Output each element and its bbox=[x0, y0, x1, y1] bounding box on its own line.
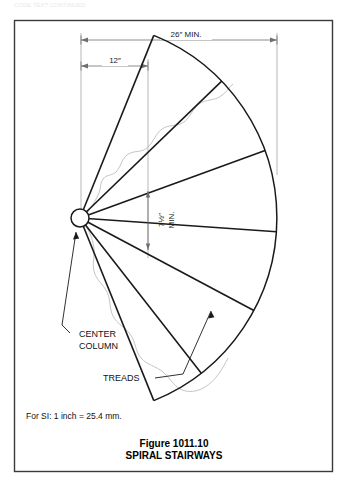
callout-label-center-column-line2: COLUMN bbox=[79, 341, 118, 351]
tread-line-3 bbox=[80, 151, 265, 218]
break-outline-upper bbox=[88, 84, 233, 212]
dimension-arrow-overall-right bbox=[270, 38, 277, 43]
dimension-label-column-offset: 12″ bbox=[109, 56, 121, 65]
figure-title: SPIRAL STAIRWAYS bbox=[126, 450, 223, 461]
si-conversion-note: For SI: 1 inch = 25.4 mm. bbox=[26, 411, 122, 421]
callout-label-center-column-line1: CENTER bbox=[79, 329, 117, 339]
center-column-circle bbox=[71, 209, 89, 227]
callout-label-treads: TREADS bbox=[103, 373, 140, 383]
figure-border bbox=[15, 21, 333, 472]
tread-line-2 bbox=[80, 81, 222, 218]
dimension-arrow-tread-bottom bbox=[146, 244, 150, 251]
callout-arrow-center-column bbox=[73, 232, 79, 240]
spiral-stairway-figure: CODE TEXT CONTINUED 26″ MIN. 12″ bbox=[0, 0, 348, 492]
figure-page: CODE TEXT CONTINUED 26″ MIN. 12″ bbox=[0, 0, 348, 492]
callout-leader-center-column bbox=[62, 232, 76, 333]
dimension-arrow-overall-left bbox=[81, 38, 88, 43]
dimension-label-tread-depth-min: MIN. bbox=[167, 212, 176, 229]
page-header-faded-text: CODE TEXT CONTINUED bbox=[14, 2, 86, 8]
break-outline-lower-tail bbox=[180, 358, 228, 391]
dimension-arrow-offset-left bbox=[81, 64, 88, 69]
callout-leader-treads bbox=[155, 311, 211, 378]
dimension-label-tread-depth-value: 7½″ bbox=[157, 213, 166, 227]
tread-line-4 bbox=[80, 218, 277, 232]
dimension-label-overall-width: 26″ MIN. bbox=[171, 30, 202, 39]
figure-number: Figure 1011.10 bbox=[140, 438, 209, 449]
dimension-label-tread-depth-group: 7½″ MIN. bbox=[157, 212, 176, 229]
break-outline-lower bbox=[86, 226, 180, 389]
tread-line-5 bbox=[80, 218, 254, 311]
